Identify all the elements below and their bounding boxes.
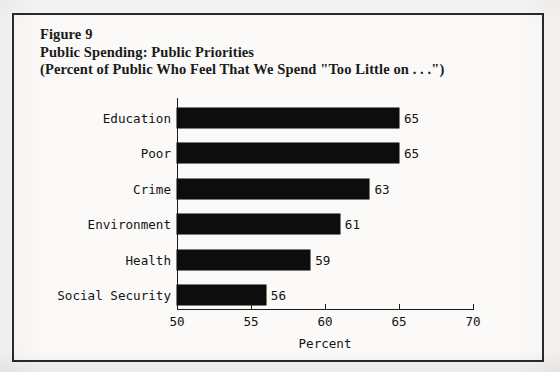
x-axis-title: Percent [298, 337, 351, 350]
bar [177, 179, 369, 199]
bar-value-label: 65 [404, 112, 419, 125]
bar-row: Education65 [177, 108, 399, 128]
bar [177, 285, 266, 305]
figure-canvas: Figure 9 Public Spending: Public Priorit… [0, 0, 560, 372]
y-axis-line [177, 98, 178, 309]
x-axis-tick [251, 304, 252, 309]
bar [177, 143, 399, 163]
bar-row: Environment61 [177, 214, 340, 234]
bar-category-label: Education [103, 112, 171, 125]
x-axis-tick [399, 304, 400, 309]
x-axis-tick-label: 50 [169, 315, 184, 328]
bar-row: Social Security56 [177, 285, 266, 305]
bar-value-label: 56 [271, 289, 286, 302]
bar-value-label: 61 [345, 218, 360, 231]
plot-area: Education65Poor65Crime63Environment61Hea… [0, 0, 560, 372]
x-axis-tick-label: 60 [317, 315, 332, 328]
bar-category-label: Crime [133, 182, 171, 195]
x-axis-tick-label: 70 [465, 315, 480, 328]
bar-category-label: Environment [88, 218, 171, 231]
bar-value-label: 59 [315, 253, 330, 266]
bar-row: Poor65 [177, 143, 399, 163]
bar-row: Health59 [177, 250, 310, 270]
bar [177, 108, 399, 128]
x-axis-line [177, 309, 474, 310]
bar-value-label: 63 [374, 182, 389, 195]
bar-category-label: Poor [141, 147, 171, 160]
bar [177, 250, 310, 270]
bar [177, 214, 340, 234]
bar-row: Crime63 [177, 179, 369, 199]
x-axis-tick-label: 65 [391, 315, 406, 328]
x-axis-tick [473, 304, 474, 309]
bar-category-label: Health [126, 253, 172, 266]
x-axis-tick [177, 304, 178, 309]
bar-category-label: Social Security [57, 289, 171, 302]
x-axis-tick [325, 304, 326, 309]
bar-value-label: 65 [404, 147, 419, 160]
x-axis-tick-label: 55 [243, 315, 258, 328]
